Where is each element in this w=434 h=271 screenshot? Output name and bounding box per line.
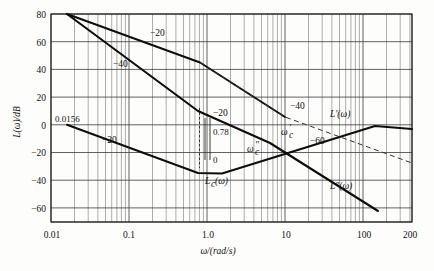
- slope-label-minus40-right: −40: [290, 101, 305, 111]
- xtick-0.01: 0.01: [44, 230, 61, 240]
- xtick-10: 10: [281, 230, 291, 240]
- annotation-0.78: 0.78: [213, 127, 229, 137]
- curve-label-Lc-base: L: [204, 176, 210, 186]
- xtick-1.0: 1.0: [202, 230, 214, 240]
- slope-label-minus40-upper: −40: [113, 59, 128, 69]
- ytick-0: 0: [41, 121, 46, 131]
- slope-label-minus60: −60: [310, 136, 325, 146]
- y-axis-title: L(ω)/dB: [12, 106, 23, 139]
- ytick-m60: −60: [31, 204, 46, 214]
- omega-c-prime-base: ω: [281, 127, 288, 137]
- ytick-60: 60: [37, 38, 47, 48]
- bode-plot-svg: 0.01 0.1 1.0 10 100 200 80 60 40 20 0 −2…: [0, 0, 434, 271]
- curve-label-L-double-prime: L″(ω): [329, 181, 352, 192]
- annotation-zero-db: 0: [213, 155, 218, 165]
- xtick-100: 100: [357, 230, 372, 240]
- curve-label-Lc-tail: (ω): [215, 176, 228, 187]
- slope-label-minus20-upper: −20: [150, 28, 165, 38]
- ytick-20: 20: [37, 93, 47, 103]
- ytick-80: 80: [37, 10, 47, 20]
- slope-label-minus20-lc: −20: [102, 135, 117, 145]
- slope-label-minus20-mid: −20: [213, 108, 228, 118]
- ytick-m40: −40: [31, 176, 46, 186]
- x-axis-title: ω/(rad/s): [200, 246, 235, 257]
- ytick-40: 40: [37, 65, 47, 75]
- xtick-0.1: 0.1: [123, 230, 135, 240]
- xtick-200: 200: [403, 230, 418, 240]
- annotation-0.0156: 0.0156: [55, 114, 80, 124]
- ytick-m20: −20: [31, 148, 46, 158]
- curve-label-L-prime: L′(ω): [329, 109, 350, 120]
- figure-canvas: 0.01 0.1 1.0 10 100 200 80 60 40 20 0 −2…: [0, 0, 434, 271]
- omega-c-dprime-base: ω: [247, 144, 254, 154]
